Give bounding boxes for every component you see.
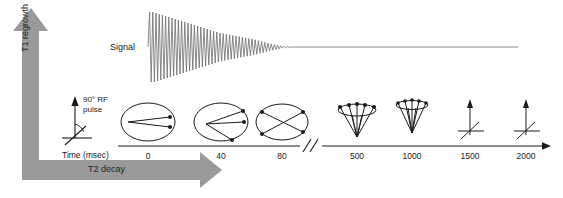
tick-label-80: 80	[272, 151, 292, 161]
spin-arrowhead-1500	[467, 99, 473, 108]
spin-arrowhead-2000	[523, 99, 529, 108]
spin-state-500	[338, 104, 376, 137]
tick-label-1500: 1500	[456, 151, 484, 161]
tick-label-0: 0	[138, 151, 158, 161]
spin-state-glyphs	[0, 0, 563, 198]
time-axis-arrowhead	[542, 142, 551, 150]
tick-label-500: 500	[345, 151, 369, 161]
spin-state-40	[194, 103, 248, 141]
spin-state-1500	[458, 103, 484, 139]
figure-canvas: T1 regrowth T2 decay Signal 90° RF pulse	[0, 0, 563, 198]
cone-arrowheads	[168, 98, 428, 142]
tick-label-2000: 2000	[512, 151, 540, 161]
spin-state-0	[121, 103, 175, 141]
tick-label-40: 40	[211, 151, 231, 161]
spin-state-2000	[514, 103, 540, 139]
spin-state-1000	[396, 100, 428, 133]
tick-label-1000: 1000	[398, 151, 426, 161]
time-axis-caption: Time (msec)	[62, 150, 109, 160]
